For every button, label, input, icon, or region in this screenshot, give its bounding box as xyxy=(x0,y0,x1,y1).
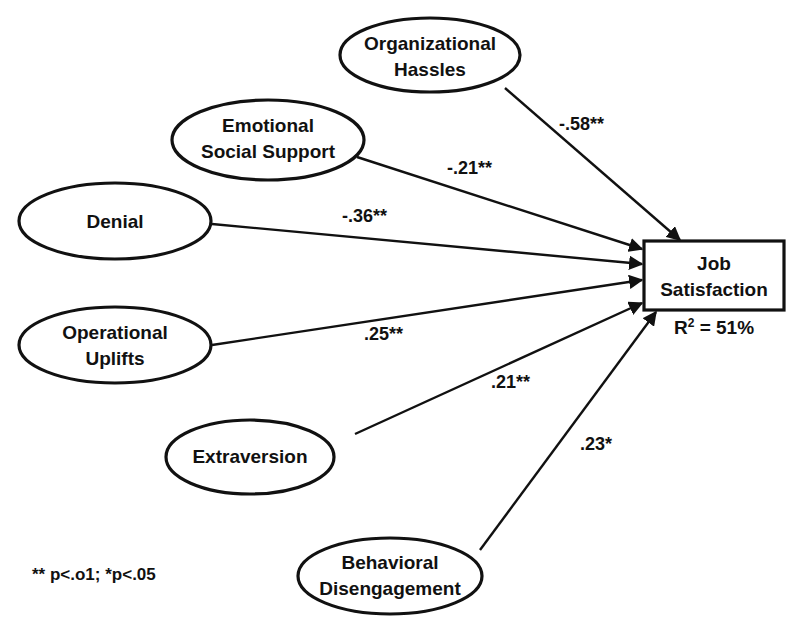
node-emotional-social-support: Emotional Social Support xyxy=(172,100,364,180)
node-label-line1: Organizational xyxy=(364,33,496,54)
edge-operational-uplifts xyxy=(212,280,642,345)
node-label: Denial xyxy=(86,211,143,232)
node-behavioral-disengagement: Behavioral Disengagement xyxy=(298,538,482,614)
node-label-line2: Disengagement xyxy=(319,578,461,599)
coef-extraversion: .21** xyxy=(491,372,530,392)
node-label-line1: Operational xyxy=(62,322,168,343)
path-diagram: -.58** -.21** -.36** .25** .21** .23* Or… xyxy=(0,0,795,629)
edge-denial xyxy=(212,224,642,264)
node-label-line2: Satisfaction xyxy=(660,279,768,300)
coef-denial: -.36** xyxy=(342,206,387,226)
node-operational-uplifts: Operational Uplifts xyxy=(19,307,211,383)
node-job-satisfaction: Job Satisfaction xyxy=(644,241,784,310)
edge-extraversion xyxy=(355,303,642,434)
edge-organizational-hassles xyxy=(505,88,680,240)
node-label-line1: Job xyxy=(697,253,731,274)
edge-behavioral-disengagement xyxy=(480,312,656,550)
node-label: Extraversion xyxy=(192,446,307,467)
coef-organizational-hassles: -.58** xyxy=(559,114,604,134)
node-label-line1: Emotional xyxy=(222,115,314,136)
node-label-line2: Social Support xyxy=(201,141,336,162)
node-denial: Denial xyxy=(19,183,211,259)
node-label-line1: Behavioral xyxy=(341,552,438,573)
node-label-line2: Uplifts xyxy=(85,348,144,369)
node-label-line2: Hassles xyxy=(394,59,466,80)
node-extraversion: Extraversion xyxy=(166,420,334,494)
coef-operational-uplifts: .25** xyxy=(364,324,403,344)
node-organizational-hassles: Organizational Hassles xyxy=(340,18,520,92)
coef-behavioral-disengagement: .23* xyxy=(580,434,612,454)
significance-footnote: ** p<.o1; *p<.05 xyxy=(32,565,156,584)
r-squared-label: R2 = 51% xyxy=(674,316,754,338)
coef-emotional-social-support: -.21** xyxy=(447,158,492,178)
